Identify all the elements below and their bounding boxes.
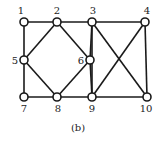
node-label-5: 5 bbox=[12, 55, 18, 66]
node-label-3: 3 bbox=[90, 5, 96, 16]
node-label-10: 10 bbox=[140, 103, 153, 114]
node-2 bbox=[53, 18, 61, 26]
figure-caption: (b) bbox=[71, 122, 85, 133]
nodes-group bbox=[20, 18, 151, 101]
edge-4-10 bbox=[145, 22, 147, 97]
node-label-1: 1 bbox=[18, 5, 24, 16]
edge-2-5 bbox=[24, 22, 57, 60]
node-label-7: 7 bbox=[21, 103, 27, 114]
node-label-6: 6 bbox=[78, 55, 84, 66]
graph-diagram: 12345678910 (b) bbox=[0, 0, 157, 146]
node-label-9: 9 bbox=[89, 103, 95, 114]
node-6 bbox=[86, 56, 94, 64]
node-7 bbox=[20, 93, 28, 101]
node-label-8: 8 bbox=[55, 103, 61, 114]
edge-5-8 bbox=[24, 60, 57, 97]
node-label-4: 4 bbox=[144, 5, 150, 16]
node-1 bbox=[20, 18, 28, 26]
node-9 bbox=[88, 93, 96, 101]
node-4 bbox=[141, 18, 149, 26]
node-5 bbox=[20, 56, 28, 64]
edge-6-8 bbox=[57, 60, 90, 97]
node-8 bbox=[53, 93, 61, 101]
edge-2-6 bbox=[57, 22, 90, 60]
node-3 bbox=[88, 18, 96, 26]
node-label-2: 2 bbox=[54, 5, 60, 16]
node-10 bbox=[143, 93, 151, 101]
